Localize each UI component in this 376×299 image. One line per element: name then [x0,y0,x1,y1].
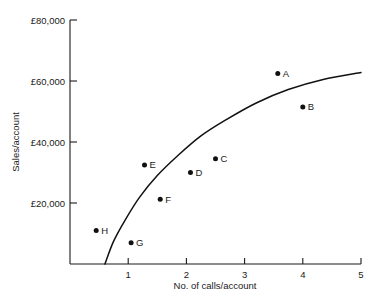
y-tick-label: £40,000 [31,137,65,148]
point-label: E [150,159,156,170]
point-marker [300,104,305,109]
data-point-h: H [94,225,109,236]
y-tick-label: £20,000 [31,198,65,209]
data-point-c: C [213,153,228,164]
y-tick-label: £80,000 [31,15,65,26]
point-label: G [136,237,143,248]
point-marker [188,170,193,175]
y-axis-title: Sales/account [10,112,21,172]
y-tick-label: £60,000 [31,76,65,87]
x-tick-label: 5 [358,269,363,280]
chart-canvas: £20,000£40,000£60,000£80,000 12345 ABCDE… [0,0,376,299]
data-point-b: B [300,101,314,112]
point-marker [213,156,218,161]
point-marker [94,228,99,233]
y-tick-labels: £20,000£40,000£60,000£80,000 [31,15,65,209]
data-points-group: ABCDEFGH [94,68,314,248]
point-label: H [101,225,108,236]
x-tick-label: 3 [242,269,247,280]
point-marker [275,71,280,76]
x-tick-labels: 12345 [126,269,364,280]
trend-curve [105,72,361,264]
point-label: D [195,167,202,178]
y-tick-marks [70,20,77,203]
data-point-a: A [275,68,290,79]
data-point-g: G [129,237,144,248]
point-label: C [221,153,228,164]
point-marker [158,197,163,202]
x-tick-label: 1 [126,269,131,280]
point-label: B [308,101,314,112]
axes-group [70,20,361,264]
x-tick-marks [128,258,361,264]
point-marker [142,162,147,167]
data-point-e: E [142,159,156,170]
data-point-f: F [158,194,172,205]
scatter-chart: £20,000£40,000£60,000£80,000 12345 ABCDE… [0,0,376,299]
x-tick-label: 4 [300,269,305,280]
point-label: F [165,194,171,205]
x-axis-title: No. of calls/account [174,280,257,291]
point-marker [129,240,134,245]
data-point-d: D [188,167,203,178]
x-tick-label: 2 [184,269,189,280]
point-label: A [283,68,290,79]
